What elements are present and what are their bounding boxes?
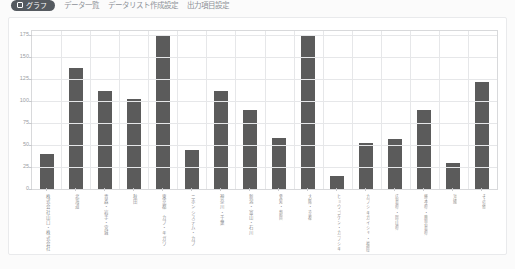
x-axis-tick-mark — [423, 188, 424, 191]
bar[interactable] — [156, 35, 170, 189]
bar[interactable] — [69, 68, 83, 189]
plot-area: 0255075100125150175 — [31, 30, 498, 190]
bar[interactable] — [417, 110, 431, 189]
bar[interactable] — [214, 91, 228, 189]
bar[interactable] — [243, 110, 257, 189]
x-axis-tick-label: 株式会社山口・株式会社 — [41, 194, 50, 252]
gridline-vertical — [468, 31, 469, 189]
gridline-vertical — [148, 31, 149, 189]
x-axis-tick-label: 青森・岩手・宮城 — [99, 194, 108, 252]
gridline-vertical — [90, 31, 91, 189]
y-axis-tick-label: 125 — [20, 77, 29, 83]
gridline-vertical — [352, 31, 353, 189]
gridline-vertical — [410, 31, 411, 189]
x-axis-tick-mark — [336, 188, 337, 191]
y-axis-tick-label: 175 — [20, 33, 29, 39]
x-axis-tick-label: 沖縄 — [448, 194, 457, 252]
bar[interactable] — [475, 82, 489, 189]
bar[interactable] — [40, 154, 54, 189]
gridline-vertical — [265, 31, 266, 189]
nav-link-data-list-settings[interactable]: データリスト作成設定 — [108, 2, 178, 10]
tab-graph-label: グラフ — [26, 2, 47, 9]
bar-chart: 0255075100125150175 株式会社山口・株式会社北海道青森・岩手・… — [9, 18, 506, 254]
x-axis-tick-mark — [278, 188, 279, 191]
gridline-vertical — [381, 31, 382, 189]
x-axis-tick-label: 大阪・京都 — [303, 194, 312, 252]
x-axis-tick-mark — [75, 188, 76, 191]
x-axis-tick-mark — [220, 188, 221, 191]
x-axis-tick-mark — [481, 188, 482, 191]
x-axis-tick-mark — [46, 188, 47, 191]
x-axis-tick-label: 広島県・岡山県 — [390, 194, 399, 252]
x-axis-tick-label: ニホンシステム・カブ — [186, 194, 195, 252]
x-axis-tick-mark — [452, 188, 453, 191]
bar[interactable] — [98, 91, 112, 189]
x-axis-tick-label: その他 — [477, 194, 486, 252]
x-axis-tick-mark — [133, 188, 134, 191]
gridline-vertical — [235, 31, 236, 189]
x-axis-tick-mark — [191, 188, 192, 191]
x-axis-labels: 株式会社山口・株式会社北海道青森・岩手・宮城秋田東京都 カブ・キガワニホンシステ… — [31, 192, 498, 252]
x-axis-tick-label: 新潟・富山・石川 — [244, 194, 253, 252]
gridline-vertical — [439, 31, 440, 189]
y-axis-tick-label: 150 — [20, 55, 29, 61]
x-axis-tick-mark — [104, 188, 105, 191]
x-axis-tick-label: 神奈川・千葉 — [215, 194, 224, 252]
x-axis-tick-label: 愛知・静岡 — [274, 194, 283, 252]
bar[interactable] — [388, 139, 402, 189]
x-axis-tick-mark — [162, 188, 163, 191]
y-axis-tick-label: 100 — [20, 98, 29, 104]
gridline-vertical — [294, 31, 295, 189]
x-axis-tick-label: 秋田 — [128, 194, 137, 252]
y-axis-tick-mark — [29, 101, 32, 102]
chart-bar-icon — [17, 2, 23, 8]
y-axis-tick-mark — [29, 145, 32, 146]
y-axis-tick-mark — [29, 79, 32, 80]
gridline-vertical — [323, 31, 324, 189]
gridline-vertical — [61, 31, 62, 189]
bar[interactable] — [330, 176, 344, 189]
bar[interactable] — [127, 99, 141, 189]
x-axis-tick-label: 北海道 — [70, 194, 79, 252]
y-axis-tick-mark — [29, 57, 32, 58]
y-axis-tick-mark — [29, 167, 32, 168]
x-axis-tick-label: カブシキガイシャ・福岡支店 — [361, 194, 370, 252]
x-axis-tick-mark — [365, 188, 366, 191]
x-axis-tick-mark — [307, 188, 308, 191]
y-axis-tick-mark — [29, 35, 32, 36]
x-axis-tick-label: 東京都 カブ・キガワ — [157, 194, 166, 252]
chart-card: 0255075100125150175 株式会社山口・株式会社北海道青森・岩手・… — [8, 17, 507, 255]
y-axis-tick-mark — [29, 123, 32, 124]
nav-link-output-settings[interactable]: 出力項目設定 — [187, 2, 229, 10]
x-axis-tick-mark — [249, 188, 250, 191]
x-axis-tick-label: ヒョウゴケン・カブシキ — [332, 194, 341, 252]
y-axis-tick-mark — [29, 189, 32, 190]
gridline-vertical — [206, 31, 207, 189]
tab-graph[interactable]: グラフ — [11, 0, 55, 11]
x-axis-tick-label: 熊本県・鹿児島県 — [419, 194, 428, 252]
nav-link-data-list[interactable]: データ一覧 — [64, 2, 99, 10]
top-navigation-bar: グラフ データ一覧 データリスト作成設定 出力項目設定 — [0, 0, 515, 11]
gridline-vertical — [119, 31, 120, 189]
bar[interactable] — [185, 150, 199, 190]
bar[interactable] — [301, 35, 315, 189]
gridline-vertical — [177, 31, 178, 189]
x-axis-tick-mark — [394, 188, 395, 191]
